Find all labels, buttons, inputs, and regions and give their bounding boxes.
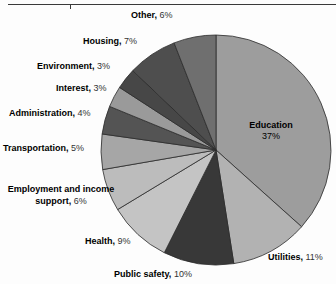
slice-label-interest-name: Interest, [56, 83, 91, 93]
slice-label-employment-pct: 6% [74, 196, 87, 206]
slice-label-administration: Administration, 4% [9, 108, 91, 119]
slice-label-employment-income-support: Employment and income support, 6% [6, 183, 116, 207]
slice-label-other-name: Other, [131, 10, 157, 20]
slice-label-other: Other, 6% [131, 10, 173, 21]
slice-label-education-pct: 37% [233, 131, 309, 142]
slice-label-utilities: Utilities, 11% [268, 252, 323, 263]
slice-label-environment-name: Environment, [37, 61, 95, 71]
slice-label-education-name: Education [233, 120, 309, 131]
slice-label-employment-name: Employment and income support, [8, 184, 115, 206]
slice-label-environment-pct: 3% [97, 61, 110, 71]
slice-label-public-safety-name: Public safety, [114, 269, 171, 279]
slice-label-health: Health, 9% [85, 236, 131, 247]
slice-label-administration-pct: 4% [78, 108, 91, 118]
slice-label-education: Education 37% [233, 120, 309, 142]
slice-label-utilities-name: Utilities, [268, 252, 303, 262]
pie-chart: Other, 6% Housing, 7% Environment, 3% In… [0, 0, 336, 284]
slice-label-environment: Environment, 3% [37, 61, 110, 72]
slice-label-administration-name: Administration, [9, 108, 75, 118]
slice-label-interest-pct: 3% [94, 83, 107, 93]
chart-screenshot: Other, 6% Housing, 7% Environment, 3% In… [0, 0, 336, 284]
slice-label-public-safety: Public safety, 10% [114, 269, 192, 280]
slice-label-other-pct: 6% [160, 10, 173, 20]
slice-label-utilities-pct: 11% [306, 252, 323, 262]
slice-label-housing-pct: 7% [124, 36, 137, 46]
pie-slice-group [101, 35, 331, 265]
slice-label-housing-name: Housing, [83, 36, 122, 46]
slice-label-transportation-pct: 5% [71, 143, 84, 153]
slice-label-transportation: Transportation, 5% [3, 143, 84, 154]
slice-label-interest: Interest, 3% [56, 83, 107, 94]
pie-chart-svg [0, 0, 336, 284]
slice-label-health-pct: 9% [118, 236, 131, 246]
slice-label-public-safety-pct: 10% [174, 269, 192, 279]
slice-label-housing: Housing, 7% [83, 36, 137, 47]
slice-label-transportation-name: Transportation, [3, 143, 69, 153]
slice-label-health-name: Health, [85, 236, 115, 246]
